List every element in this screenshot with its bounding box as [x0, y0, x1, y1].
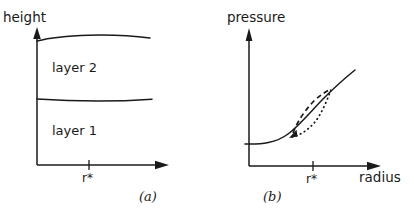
panel-a-region-label-lower: layer 1	[52, 123, 97, 138]
panel-b-y-axis	[246, 28, 253, 166]
figure-canvas: height layer 2 layer 1 r* (a)	[0, 0, 414, 212]
panel-a-caption: (a)	[139, 189, 157, 204]
panel-a-xtick-label: r*	[82, 171, 93, 185]
panel-b: pressure radius r* (b)	[227, 9, 401, 204]
panel-a: height layer 2 layer 1 r* (a)	[3, 9, 169, 204]
panel-a-y-axis-label: height	[3, 9, 46, 25]
panel-b-xtick-label: r*	[306, 172, 317, 186]
panel-b-caption: (b)	[263, 189, 281, 204]
panel-a-region-label-upper: layer 2	[52, 60, 97, 75]
figure-container: height layer 2 layer 1 r* (a)	[0, 0, 414, 212]
panel-a-y-axis	[33, 27, 41, 165]
panel-a-layer-interface	[37, 99, 152, 101]
panel-b-pressure-curve	[245, 70, 355, 144]
panel-a-top-surface	[37, 35, 150, 41]
panel-a-x-axis	[37, 161, 169, 169]
panel-b-x-axis-label: radius	[359, 169, 401, 185]
panel-b-y-axis-label: pressure	[227, 9, 285, 25]
